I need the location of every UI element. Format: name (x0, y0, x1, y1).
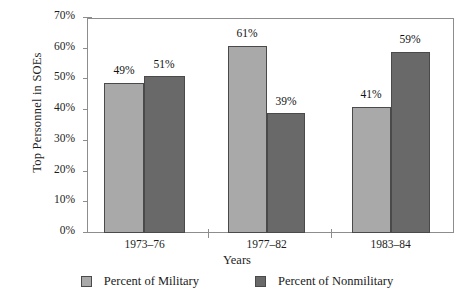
y-tick-label: 50% (15, 70, 75, 82)
legend-label-military: Percent of Military (104, 274, 199, 289)
x-tick-mark (208, 229, 209, 238)
y-tick-label: 10% (15, 193, 75, 205)
legend-item-military[interactable]: Percent of Military (81, 274, 199, 289)
bar-value-military-1977-82: 61% (217, 27, 277, 39)
x-category-label-1973-76: 1973‒76 (104, 238, 185, 250)
chart-legend: Percent of Military Percent of Nonmilita… (0, 274, 474, 289)
x-tick-mark (331, 229, 332, 238)
bar-military-1973-76[interactable] (104, 83, 144, 234)
legend-label-nonmilitary: Percent of Nonmilitary (278, 274, 393, 289)
bar-nonmilitary-1977-82[interactable] (267, 113, 305, 233)
legend-swatch-military-icon (81, 276, 92, 287)
bar-military-1977-82[interactable] (228, 46, 267, 233)
x-axis-title: Years (0, 253, 474, 268)
y-tick-label: 60% (15, 40, 75, 52)
bar-value-nonmilitary-1977-82: 39% (256, 95, 316, 107)
bar-value-nonmilitary-1983-84: 59% (380, 33, 440, 45)
legend-item-nonmilitary[interactable]: Percent of Nonmilitary (255, 274, 393, 289)
x-category-label-1983-84: 1983‒84 (350, 238, 431, 250)
x-category-label-1977-82: 1977‒82 (226, 238, 307, 250)
y-tick-label: 20% (15, 163, 75, 175)
bar-chart-figure: Top Personnel in SOEs 70% 60% 50% 40% 30… (0, 0, 474, 304)
y-tick-label: 30% (15, 132, 75, 144)
y-tick-label: 40% (15, 101, 75, 113)
bar-military-1983-84[interactable] (352, 107, 391, 233)
bar-nonmilitary-1973-76[interactable] (144, 76, 185, 233)
legend-swatch-nonmilitary-icon (255, 276, 266, 287)
y-tick-label: 0% (15, 224, 75, 236)
y-tick-label: 70% (15, 9, 75, 21)
bar-nonmilitary-1983-84[interactable] (391, 52, 430, 233)
bar-value-nonmilitary-1973-76: 51% (134, 58, 194, 70)
